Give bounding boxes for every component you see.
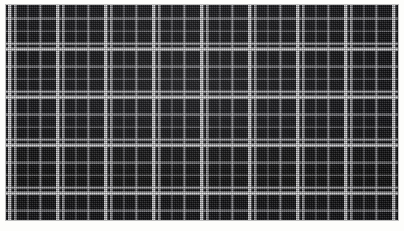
fabric-swatch-image: Black and white windowpane check fabric … — [0, 0, 404, 231]
fabric-photo-plate — [6, 5, 398, 220]
check-weave-dither — [6, 5, 398, 220]
